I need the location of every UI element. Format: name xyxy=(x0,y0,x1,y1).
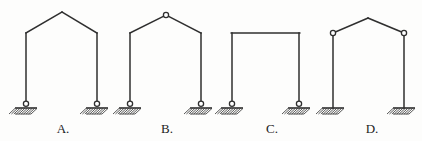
rafter-left-B xyxy=(130,16,164,33)
frame-label-B: B. xyxy=(161,121,173,136)
pin-support-hinge-right-A xyxy=(94,101,99,106)
structural-frames-figure: A.B.C.D. xyxy=(0,0,422,141)
support-left-A xyxy=(9,101,37,114)
rafter-left-D xyxy=(335,18,368,32)
frame-label-D: D. xyxy=(366,121,379,136)
support-right-C xyxy=(282,101,310,114)
pin-support-hinge-right-B xyxy=(198,101,203,106)
pin-support-hinge-right-C xyxy=(296,101,301,106)
pin-support-hinge-left-B xyxy=(127,101,132,106)
frame-label-A: A. xyxy=(57,121,70,136)
frames-layer xyxy=(9,12,415,114)
support-right-B xyxy=(184,101,212,114)
apex-hinge-B xyxy=(163,12,168,17)
support-left-D xyxy=(316,108,344,114)
frame-option-B[interactable] xyxy=(113,12,212,114)
eave-hinge-right-D xyxy=(401,30,406,35)
rafter-left-A xyxy=(26,12,62,33)
frame-label-C: C. xyxy=(266,121,278,136)
pin-support-hinge-left-C xyxy=(229,101,234,106)
frame-option-C[interactable] xyxy=(215,33,310,114)
pin-support-hinge-left-A xyxy=(23,101,28,106)
support-left-C xyxy=(215,101,243,114)
frames-diagram: A.B.C.D. xyxy=(0,0,422,141)
support-right-A xyxy=(80,101,108,114)
eave-hinge-left-D xyxy=(330,30,335,35)
frame-option-D[interactable] xyxy=(316,18,415,114)
support-left-B xyxy=(113,101,141,114)
frame-labels-layer: A.B.C.D. xyxy=(57,121,379,136)
support-right-D xyxy=(387,108,415,114)
frame-option-A[interactable] xyxy=(9,12,108,114)
rafter-right-B xyxy=(168,16,201,33)
rafter-right-D xyxy=(368,18,402,32)
rafter-right-A xyxy=(62,12,97,33)
